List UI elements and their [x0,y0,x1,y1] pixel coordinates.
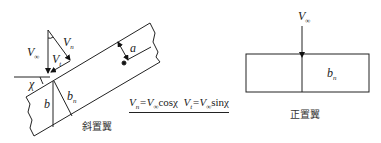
label-a: a [130,42,136,54]
aerodynamic-center-dot [122,61,126,65]
chi-arc [40,77,43,84]
straight-label-b-n: bn [327,67,337,84]
dimension-a [118,42,128,60]
swept-left-break [26,97,34,136]
label-b: b [44,98,50,110]
straight-wing-outline [246,54,369,92]
swept-wing-caption: 斜置翼 [82,118,112,133]
label-v-n: Vn [63,36,74,53]
label-v-inf: V∞ [27,46,39,63]
straight-wing-caption: 正置翼 [290,106,320,121]
swept-right-break [150,23,160,62]
label-v-t: Vt [52,53,61,70]
angle-arc-top [48,37,53,38]
straight-wing [246,26,369,92]
velocity-formula: Vn=V∞cosχ Vt=V∞sinχ [129,96,229,113]
wing-diagram [0,0,381,143]
label-chi: χ [29,78,34,90]
label-b-n: bn [67,90,77,107]
straight-label-v-inf: V∞ [298,10,310,27]
swept-leading-edge [26,23,150,97]
